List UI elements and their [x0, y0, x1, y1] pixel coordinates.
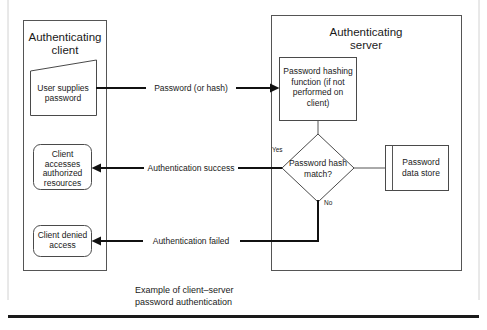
container-authenticating-server [272, 16, 462, 271]
edge-label-auth-failed: Authentication failed [153, 236, 230, 246]
figure-caption-line1: Example of client–server [135, 285, 234, 295]
node-user-supplies-password-line1: User supplies [37, 83, 89, 93]
node-user-supplies-password-line2: password [45, 93, 82, 103]
client-title-line2: client [52, 44, 80, 56]
node-data-store-line1: Password [402, 157, 440, 167]
node-client-accesses-line3: authorized [43, 168, 83, 178]
authentication-flow-diagram: Authenticating client User supplies pass… [0, 0, 487, 330]
node-client-accesses-line4: resources [44, 178, 81, 188]
figure-caption-line2: password authentication [135, 297, 232, 307]
figure-page: Authenticating client User supplies pass… [0, 0, 487, 330]
node-hashing-function-line2: function (if not [291, 77, 345, 87]
node-hashing-function-line4: client) [307, 98, 330, 108]
node-decision-line2: match? [304, 169, 332, 179]
server-title-line1: Authenticating [330, 26, 403, 38]
branch-label-no: No [324, 199, 333, 206]
node-client-accesses-line2: accesses [45, 159, 80, 169]
node-data-store-line2: data store [402, 168, 440, 178]
node-client-denied-line2: access [49, 240, 75, 250]
edge-password-or-hash-arrowhead [270, 84, 280, 93]
node-decision-line1: Password hash [289, 158, 347, 168]
edge-label-password-or-hash: Password (or hash) [154, 83, 228, 93]
node-hashing-function-line3: performed on [293, 87, 344, 97]
node-client-denied-line1: Client denied [38, 230, 88, 240]
node-client-accesses-line1: Client [52, 149, 74, 159]
client-title-line1: Authenticating [29, 31, 102, 43]
edge-auth-failed-arrowhead [92, 237, 102, 246]
edge-label-auth-success: Authentication success [148, 163, 235, 173]
node-hashing-function-line1: Password hashing [283, 66, 353, 76]
branch-label-yes: Yes [272, 146, 283, 153]
server-title-line2: server [350, 39, 382, 51]
edge-auth-success-arrowhead [92, 164, 102, 173]
